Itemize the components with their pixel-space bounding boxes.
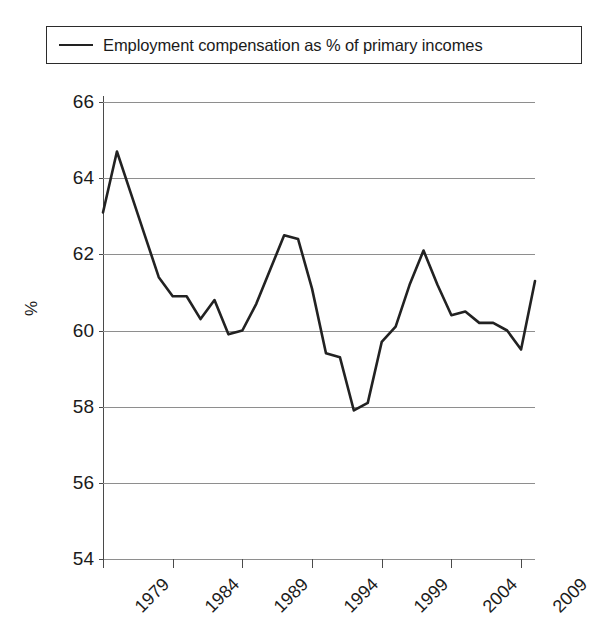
- x-tick-label-1994: 1994: [340, 574, 383, 617]
- x-tick-1984: [173, 559, 174, 568]
- y-tick-label-62: 62: [54, 243, 94, 265]
- y-tick-label-56: 56: [54, 472, 94, 494]
- x-tick-2009: [521, 559, 522, 568]
- x-tick-1979: [103, 559, 104, 568]
- y-tick-label-66: 66: [54, 91, 94, 113]
- y-axis-title: %: [22, 301, 42, 316]
- chart-legend: Employment compensation as % of primary …: [46, 26, 582, 64]
- x-tick-label-1979: 1979: [131, 574, 174, 617]
- series-line-employment-compensation: [103, 152, 535, 411]
- y-tick-label-54: 54: [54, 548, 94, 570]
- x-tick-1989: [242, 559, 243, 568]
- plot-area: [103, 102, 535, 559]
- x-tick-1994: [312, 559, 313, 568]
- y-tick-label-60: 60: [54, 320, 94, 342]
- x-tick-label-2004: 2004: [479, 574, 522, 617]
- x-tick-label-2009: 2009: [549, 574, 591, 617]
- y-tick-label-58: 58: [54, 396, 94, 418]
- x-tick-label-1984: 1984: [200, 574, 243, 617]
- x-axis-ticks: [103, 559, 535, 571]
- x-tick-1999: [382, 559, 383, 568]
- x-tick-label-1999: 1999: [409, 574, 452, 617]
- legend-label: Employment compensation as % of primary …: [103, 36, 483, 55]
- y-axis-labels: 54565860626466: [50, 102, 94, 559]
- x-tick-label-1989: 1989: [270, 574, 313, 617]
- y-tick-label-64: 64: [54, 167, 94, 189]
- series-svg: [103, 102, 535, 559]
- legend-line-swatch-icon: [59, 44, 93, 46]
- x-tick-2004: [451, 559, 452, 568]
